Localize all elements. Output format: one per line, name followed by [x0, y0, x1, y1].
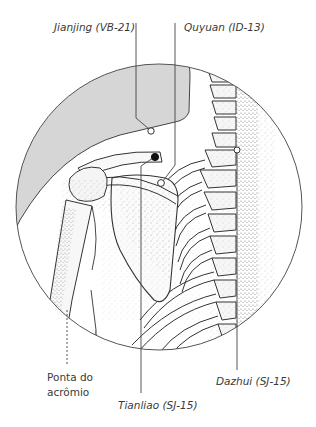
- point-tianliao-marker: [151, 153, 158, 160]
- point-dazhui-marker: [234, 147, 240, 153]
- label-acromion-line1: Ponta do: [47, 371, 93, 384]
- label-dazhui: Dazhui (SJ-15): [216, 375, 291, 388]
- label-jianjing: Jianjing (VB-21): [54, 21, 135, 34]
- label-acromion-line2: acrômio: [47, 386, 89, 399]
- point-jianjing-marker: [148, 128, 154, 134]
- acupuncture-diagram: Jianjing (VB-21) Quyuan (ID-13) Ponta do…: [0, 0, 316, 427]
- shoulder-illustration: [0, 0, 316, 427]
- label-tianliao: Tianliao (SJ-15): [118, 399, 198, 412]
- point-quyuan-marker: [158, 180, 165, 187]
- label-quyuan: Quyuan (ID-13): [184, 21, 265, 34]
- view-circle-content: [0, 60, 276, 360]
